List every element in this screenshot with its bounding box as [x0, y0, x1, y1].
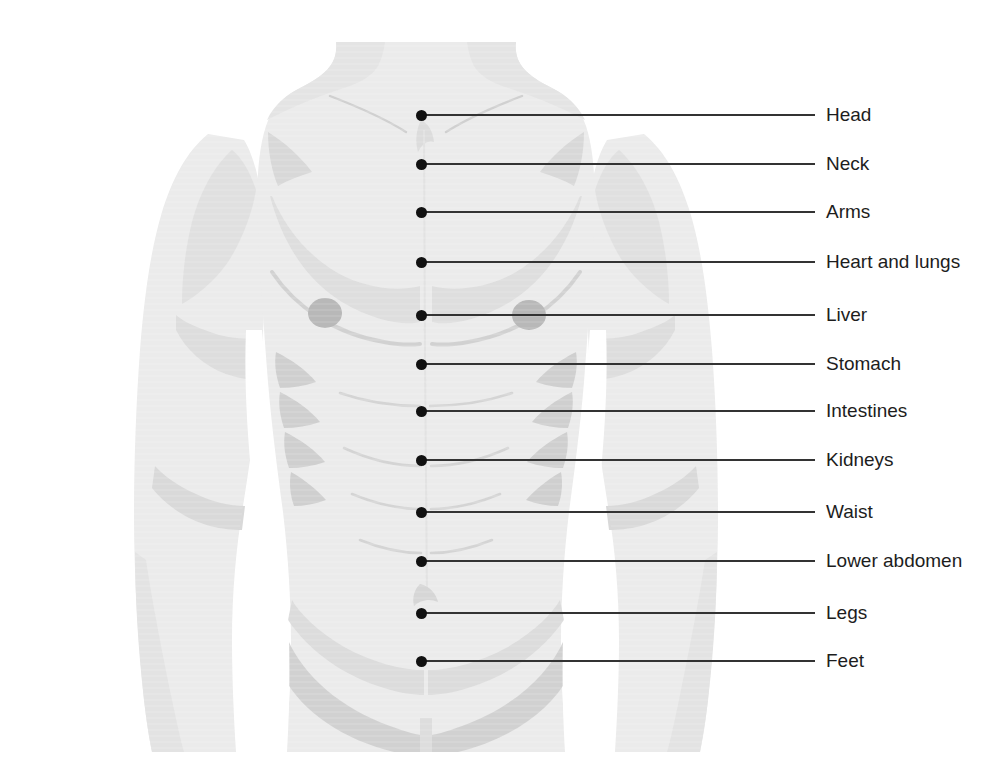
leader-line-arms [421, 211, 815, 213]
body-regions-diagram: HeadNeckArmsHeart and lungsLiverStomachI… [0, 0, 1008, 775]
marker-dot-lower-abdomen[interactable] [416, 556, 427, 567]
marker-dot-stomach[interactable] [416, 359, 427, 370]
callout-label-arms: Arms [826, 202, 870, 221]
leader-line-head [421, 114, 815, 116]
marker-dot-waist[interactable] [416, 507, 427, 518]
marker-dot-feet[interactable] [416, 656, 427, 667]
callout-label-legs: Legs [826, 603, 867, 622]
marker-dot-head[interactable] [416, 110, 427, 121]
marker-dot-kidneys[interactable] [416, 455, 427, 466]
leader-line-kidneys [421, 459, 815, 461]
leader-line-liver [421, 314, 815, 316]
leader-line-feet [421, 660, 815, 662]
marker-dot-liver[interactable] [416, 310, 427, 321]
callout-label-intestines: Intestines [826, 401, 907, 420]
leader-line-legs [421, 612, 815, 614]
marker-dot-neck[interactable] [416, 159, 427, 170]
callout-label-feet: Feet [826, 651, 864, 670]
marker-dot-arms[interactable] [416, 207, 427, 218]
marker-dot-heart-and-lungs[interactable] [416, 257, 427, 268]
marker-dot-intestines[interactable] [416, 406, 427, 417]
leader-line-heart-and-lungs [421, 261, 815, 263]
callout-label-kidneys: Kidneys [826, 450, 894, 469]
callout-label-heart-and-lungs: Heart and lungs [826, 252, 960, 271]
leader-line-stomach [421, 363, 815, 365]
callout-label-waist: Waist [826, 502, 873, 521]
leader-line-intestines [421, 410, 815, 412]
marker-dot-legs[interactable] [416, 608, 427, 619]
leader-line-neck [421, 163, 815, 165]
callout-label-liver: Liver [826, 305, 867, 324]
callout-label-neck: Neck [826, 154, 869, 173]
leader-line-waist [421, 511, 815, 513]
leader-line-lower-abdomen [421, 560, 815, 562]
callout-label-stomach: Stomach [826, 354, 901, 373]
callout-label-head: Head [826, 105, 871, 124]
callout-list: HeadNeckArmsHeart and lungsLiverStomachI… [0, 0, 1008, 775]
callout-label-lower-abdomen: Lower abdomen [826, 551, 962, 570]
